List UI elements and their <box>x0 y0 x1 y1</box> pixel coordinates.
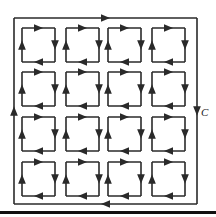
outer-boundary-curve <box>14 18 197 204</box>
loop-r2-c2 <box>66 72 99 106</box>
loop-r1-c2 <box>66 28 99 62</box>
curve-label-c: C <box>201 106 209 118</box>
loop-r3-c2 <box>66 117 99 151</box>
loop-r3-c1 <box>22 117 55 151</box>
loop-r4-c3 <box>108 162 141 196</box>
bottom-rule <box>0 211 216 214</box>
loop-r1-c3 <box>108 28 141 62</box>
loop-r4-c1 <box>22 162 55 196</box>
loop-r4-c2 <box>66 162 99 196</box>
loop-r2-c3 <box>108 72 141 106</box>
loop-r1-c1 <box>22 28 55 62</box>
circulation-diagram: C <box>0 0 216 217</box>
loop-r2-c1 <box>22 72 55 106</box>
loop-r1-c4 <box>152 28 185 62</box>
loop-r2-c4 <box>152 72 185 106</box>
grid-loops <box>22 28 185 196</box>
loop-r4-c4 <box>152 162 185 196</box>
loop-r3-c3 <box>108 117 141 151</box>
loop-r3-c4 <box>152 117 185 151</box>
